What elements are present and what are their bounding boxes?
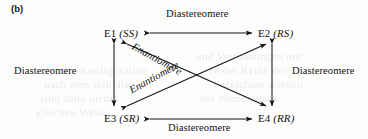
node-e2: E2 (RS): [258, 27, 293, 39]
node-e3: E3 (SR): [104, 112, 139, 124]
node-e4-descriptor: (RR): [273, 112, 294, 124]
node-e4-code: E4: [258, 112, 270, 124]
edge-label-left: Diastereomere: [14, 65, 77, 76]
node-e1: E1 (SS): [104, 27, 138, 39]
figure-container: und Verbindungen mit hier die Konfigurat…: [0, 0, 368, 139]
node-e2-code: E2: [258, 27, 270, 39]
node-e4: E4 (RR): [258, 112, 294, 124]
edge-label-top: Diastereomere: [166, 8, 229, 19]
node-e3-code: E3: [104, 112, 116, 124]
node-e3-descriptor: (SR): [119, 112, 139, 124]
node-e1-descriptor: (SS): [119, 27, 138, 39]
edge-label-right: Diastereomere: [292, 65, 355, 76]
edge-label-bottom: Diastereomere: [168, 122, 231, 133]
node-e2-descriptor: (RS): [273, 27, 293, 39]
node-e1-code: E1: [104, 27, 116, 39]
